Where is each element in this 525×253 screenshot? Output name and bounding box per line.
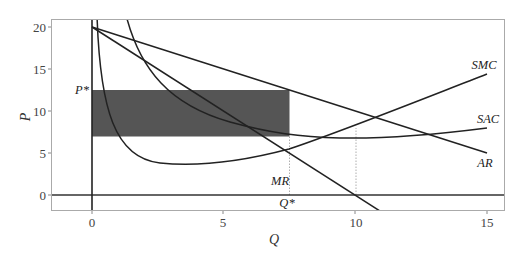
p-star-label: P* [74,83,90,97]
x-tick-5: 5 [220,215,227,230]
x-tick-15: 15 [481,215,494,230]
y-tick-10: 10 [33,104,46,119]
y-tick-20: 20 [33,20,46,35]
x-axis-ticks [92,211,487,214]
q-star-label: Q* [279,196,295,210]
x-tick-0: 0 [89,215,96,230]
smc-label: SMC [472,58,498,72]
x-tick-10: 10 [350,215,363,230]
economics-chart: 20 15 10 5 0 0 5 10 15 Q P P* Q* MR SMC … [0,0,525,253]
x-axis-title: Q [269,232,279,247]
y-tick-15: 15 [33,62,46,77]
mr-label: MR [270,174,289,188]
y-tick-0: 0 [40,188,47,203]
y-tick-5: 5 [40,146,47,161]
y-axis-title: P [18,112,33,122]
sac-label: SAC [477,112,500,126]
ar-label: AR [476,156,493,170]
y-axis-ticks [48,27,51,195]
